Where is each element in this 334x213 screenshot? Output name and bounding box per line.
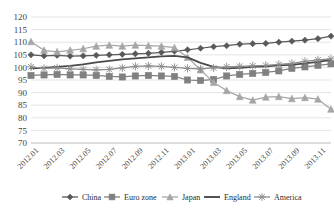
x-tick-label: 2013.01 <box>172 146 197 171</box>
data-point-star <box>40 64 48 72</box>
data-point-star <box>92 66 100 74</box>
data-point-diamond <box>145 50 151 56</box>
y-tick-label: 95 <box>18 75 28 85</box>
data-point-star <box>157 62 165 70</box>
series-line <box>31 56 331 69</box>
data-point-triangle <box>236 93 243 100</box>
y-tick-label: 100 <box>14 63 28 73</box>
series-group <box>27 33 334 112</box>
legend-item-euro-zone[interactable]: Euro zone <box>104 193 157 202</box>
data-point-star <box>27 63 35 71</box>
data-point-diamond <box>197 45 203 51</box>
data-point-diamond <box>289 38 295 44</box>
y-tick-label: 120 <box>14 12 28 22</box>
y-tick-label: 105 <box>14 50 28 60</box>
data-point-star <box>223 63 231 71</box>
x-tick-label: 2012.03 <box>42 146 67 171</box>
x-tick-label: 2012.11 <box>146 146 171 171</box>
legend-label: Japan <box>182 193 200 202</box>
data-point-square <box>145 72 151 78</box>
x-tick-label: 2012.09 <box>120 146 145 171</box>
data-point-star <box>183 64 191 72</box>
data-point-star <box>144 62 152 70</box>
data-point-star <box>79 65 87 73</box>
data-point-star <box>105 65 113 73</box>
data-point-star <box>131 62 139 70</box>
x-tick-label: 2013.11 <box>303 146 328 171</box>
x-tick-label: 2012.07 <box>94 146 119 171</box>
data-point-diamond <box>67 53 73 59</box>
legend-item-japan[interactable]: Japan <box>162 193 200 202</box>
gridlines <box>31 17 331 143</box>
data-point-square <box>276 68 282 74</box>
data-point-diamond <box>67 194 73 200</box>
data-point-diamond <box>93 52 99 58</box>
series-china <box>28 33 334 59</box>
data-point-square <box>54 71 60 77</box>
x-tick-label: 2013.07 <box>250 146 275 171</box>
data-point-star <box>196 65 204 73</box>
data-point-star <box>288 59 296 67</box>
data-point-square <box>41 72 47 78</box>
data-point-square <box>106 73 112 79</box>
chart-legend: ChinaEuro zoneJapanEnglandAmerica <box>62 193 302 202</box>
line-chart: 120115110105100959085807570 2012.012012.… <box>0 0 334 213</box>
series-line <box>31 64 331 81</box>
data-point-square <box>158 73 164 79</box>
legend-item-america[interactable]: America <box>254 193 302 202</box>
y-tick-label: 75 <box>18 126 28 136</box>
data-point-star <box>275 60 283 68</box>
data-point-diamond <box>250 41 256 47</box>
data-point-diamond <box>132 51 138 57</box>
data-point-diamond <box>80 53 86 59</box>
legend-label: China <box>82 193 102 202</box>
data-point-star <box>258 193 266 201</box>
y-axis-tick-labels: 120115110105100959085807570 <box>14 12 28 148</box>
data-point-triangle <box>28 38 35 45</box>
x-tick-label: 2012.05 <box>68 146 93 171</box>
data-point-star <box>249 62 257 70</box>
legend-label: England <box>224 193 251 202</box>
data-point-square <box>224 73 230 79</box>
data-point-square <box>197 77 203 83</box>
data-point-diamond <box>106 52 112 58</box>
data-point-square <box>250 70 256 76</box>
data-point-diamond <box>276 39 282 45</box>
data-point-diamond <box>211 44 217 50</box>
data-point-diamond <box>328 33 334 39</box>
data-point-square <box>184 77 190 83</box>
data-point-star <box>118 64 126 72</box>
data-point-square <box>119 74 125 80</box>
chart-canvas: 120115110105100959085807570 2012.012012.… <box>0 0 334 213</box>
legend-item-china[interactable]: China <box>62 193 102 202</box>
data-point-square <box>28 72 34 78</box>
data-point-square <box>109 194 115 200</box>
data-point-diamond <box>224 43 230 49</box>
series-england <box>31 56 331 69</box>
data-point-triangle <box>223 87 230 94</box>
legend-item-england[interactable]: England <box>204 193 251 202</box>
x-tick-label: 2013.05 <box>224 146 249 171</box>
x-tick-label: 2012.01 <box>16 146 41 171</box>
data-point-diamond <box>28 52 34 58</box>
data-point-diamond <box>315 36 321 42</box>
x-axis-tick-labels: 2012.012012.032012.052012.072012.092012.… <box>16 146 328 171</box>
data-point-diamond <box>119 51 125 57</box>
data-point-diamond <box>263 40 269 46</box>
legend-label: America <box>274 193 302 202</box>
data-point-diamond <box>184 47 190 53</box>
y-tick-label: 115 <box>14 25 28 35</box>
x-tick-label: 2013.03 <box>198 146 223 171</box>
data-point-star <box>53 64 61 72</box>
legend-label: Euro zone <box>124 193 157 202</box>
data-point-star <box>170 63 178 71</box>
data-point-star <box>314 56 322 64</box>
y-tick-label: 80 <box>18 113 28 123</box>
data-point-square <box>237 71 243 77</box>
data-point-square <box>263 69 269 75</box>
y-tick-label: 70 <box>18 138 28 148</box>
data-point-square <box>171 73 177 79</box>
data-point-square <box>132 73 138 79</box>
data-point-star <box>262 61 270 69</box>
data-point-star <box>210 64 218 72</box>
